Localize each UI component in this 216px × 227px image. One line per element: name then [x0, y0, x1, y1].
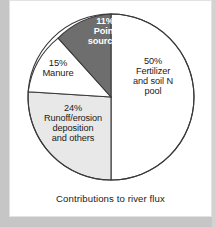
page-margin-left — [0, 0, 9, 227]
pie-slice-runoff — [28, 92, 111, 180]
pie-slice-fertilizer — [111, 14, 194, 180]
page-margin-right — [212, 0, 216, 227]
pie-chart-graphic — [10, 1, 211, 186]
pie-chart: 50% Fertilizer and soil N pool 24% Runof… — [10, 1, 211, 186]
figure-card: 50% Fertilizer and soil N pool 24% Runof… — [9, 0, 212, 217]
figure-caption: Contributions to river flux — [10, 193, 211, 204]
figure-screenshot: 50% Fertilizer and soil N pool 24% Runof… — [0, 0, 216, 227]
page-margin-bottom — [0, 217, 216, 227]
